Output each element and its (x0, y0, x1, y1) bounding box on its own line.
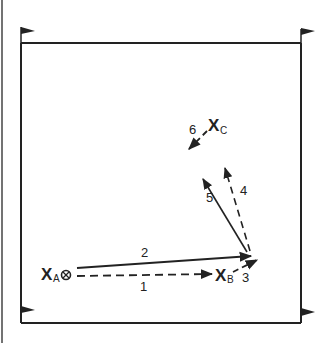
svg-text:A: A (53, 273, 60, 284)
player-c: X C (208, 116, 227, 136)
flag-icon (301, 28, 315, 43)
svg-text:C: C (220, 125, 227, 136)
flag-icon (21, 306, 35, 313)
drill-diagram: X A X B X C 1 2 3 4 5 6 (0, 0, 324, 343)
player-a: X A (41, 265, 60, 284)
svg-text:X: X (215, 266, 227, 285)
player-b: X B (215, 266, 234, 285)
svg-text:X: X (208, 116, 220, 135)
step-label-2: 2 (141, 245, 148, 260)
arrow-1 (77, 274, 212, 276)
step-label-4: 4 (240, 183, 247, 198)
svg-text:X: X (41, 265, 53, 284)
flag-icon (21, 27, 35, 43)
ball-icon (62, 271, 71, 280)
step-label-1: 1 (140, 279, 147, 294)
step-label-5: 5 (206, 190, 213, 205)
step-label-6: 6 (189, 122, 196, 137)
step-label-3: 3 (242, 270, 249, 285)
arrow-4 (225, 168, 250, 251)
field (21, 43, 301, 323)
svg-text:B: B (227, 274, 234, 285)
flag-icon (301, 308, 315, 316)
